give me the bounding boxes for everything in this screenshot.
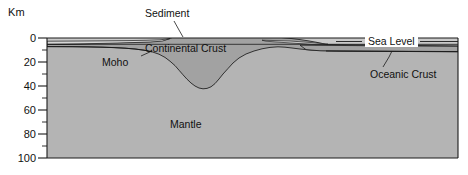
annotation-mantle: Mantle: [170, 118, 202, 130]
annotation-moho: Moho: [102, 56, 128, 68]
cross-section-canvas: [0, 0, 468, 175]
annotation-oceanic-crust: Oceanic Crust: [370, 68, 437, 80]
annotation-continental-crust: Continental Crust: [145, 42, 226, 54]
axis-minor-ticks: [42, 50, 47, 146]
cross-section-figure: Km 0 20 40 60 80 100: [0, 0, 468, 175]
annotation-sediment: Sediment: [145, 7, 189, 19]
annotation-sea-level: Sea Level: [365, 35, 418, 47]
sediment-leader-line: [174, 21, 183, 37]
